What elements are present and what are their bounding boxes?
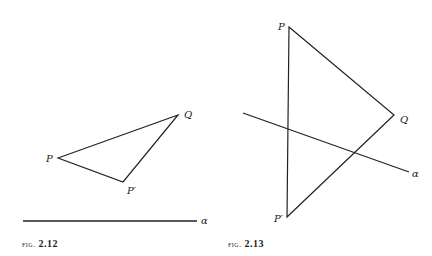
label-alpha: α — [412, 168, 419, 179]
label-alpha: α — [201, 215, 208, 226]
caption-fig-2-12: fig. 2.12 — [22, 238, 58, 249]
label-q: Q — [400, 114, 408, 125]
label-p-prime: P′ — [126, 185, 137, 196]
figure-2-13: P Q P′ α — [243, 21, 419, 224]
caption-fig-2-13: fig. 2.13 — [228, 238, 264, 249]
diagram-canvas: P Q P′ α P Q P′ α — [0, 0, 432, 256]
caption-number: 2.12 — [38, 238, 58, 249]
label-q: Q — [184, 109, 192, 120]
caption-prefix: fig. — [228, 240, 242, 249]
caption-prefix: fig. — [22, 240, 36, 249]
label-p: P — [277, 21, 285, 32]
label-p-prime: P′ — [273, 213, 284, 224]
triangle-p-q-pprime — [58, 115, 178, 182]
triangle-p-q-pprime — [287, 27, 394, 217]
figure-2-12: P Q P′ α — [23, 109, 208, 226]
caption-number: 2.13 — [244, 238, 264, 249]
line-alpha — [243, 113, 409, 172]
label-p: P — [45, 153, 53, 164]
